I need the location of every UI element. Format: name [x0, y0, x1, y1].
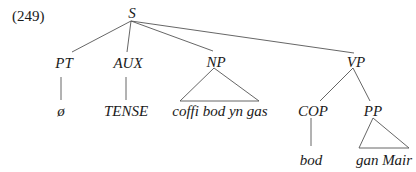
np-triangle: [180, 68, 259, 101]
branch-vp-cop: [320, 68, 353, 101]
node-aux: AUX: [113, 56, 142, 71]
leaf-pt: ø: [57, 104, 65, 119]
node-pp: PP: [364, 104, 382, 119]
node-s: S: [128, 6, 136, 21]
syntax-tree-diagram: (249) S PT AUX NP VP ø TENSE coffi bod y…: [0, 0, 416, 172]
branch-s-np: [131, 21, 213, 51]
node-np: NP: [206, 55, 225, 70]
pp-triangle: [359, 118, 409, 148]
node-vp: VP: [347, 55, 365, 70]
leaf-cop: bod: [300, 153, 323, 168]
leaf-aux: TENSE: [104, 104, 148, 119]
node-pt: PT: [55, 56, 73, 71]
leaf-np: coffi bod yn gas: [172, 104, 267, 119]
branch-s-vp: [131, 21, 354, 53]
leaf-pp: gan Mair: [356, 153, 412, 168]
branch-s-pt: [72, 21, 131, 52]
node-cop: COP: [298, 104, 328, 119]
branch-vp-pp: [353, 68, 370, 101]
branch-s-aux: [127, 21, 131, 52]
tree-branches: [0, 0, 416, 172]
example-number: (249): [12, 9, 45, 24]
